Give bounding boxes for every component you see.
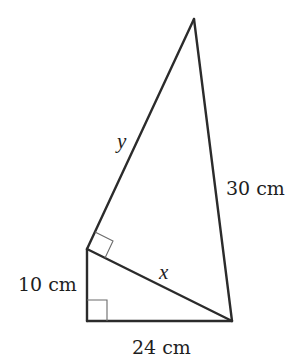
edge-y — [87, 19, 194, 249]
triangle-diagram: y 30 cm x 10 cm 24 cm — [0, 0, 293, 361]
edge-30cm — [194, 19, 232, 321]
label-x: x — [158, 260, 169, 284]
label-10cm: 10 cm — [18, 273, 77, 295]
right-angle-marker-bottom — [87, 300, 107, 321]
label-30cm: 30 cm — [226, 177, 285, 199]
label-24cm: 24 cm — [132, 336, 191, 358]
label-y: y — [115, 129, 127, 153]
